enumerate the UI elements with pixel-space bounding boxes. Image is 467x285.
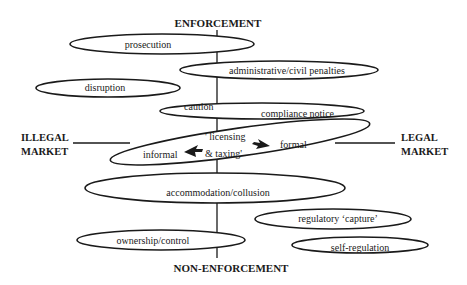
licensing-label: ' licensing (205, 131, 245, 142)
ownership-control-label: ownership/control (117, 235, 190, 246)
accommodation-collusion-label: accommodation/collusion (166, 187, 269, 198)
caution-label: caution (184, 101, 213, 112)
self-regulation-label: self-regulation (331, 242, 389, 253)
informal-label: informal (143, 149, 178, 160)
illegal-label: ILLEGAL (21, 132, 69, 143)
enforcement-market-diagram: ENFORCEMENT prosecution administrative/c… (0, 0, 467, 285)
non-enforcement-label: NON-ENFORCEMENT (174, 262, 290, 274)
administrative-penalties-label: administrative/civil penalties (229, 65, 345, 76)
compliance-notice-label: compliance notice (261, 108, 335, 119)
legal-market-label: MARKET (401, 146, 448, 157)
legal-label: LEGAL (401, 132, 438, 143)
illegal-market-label: MARKET (21, 146, 68, 157)
prosecution-label: prosecution (125, 39, 172, 50)
enforcement-label: ENFORCEMENT (175, 17, 262, 29)
disruption-label: disruption (85, 82, 126, 93)
taxing-label: & taxing' (205, 148, 242, 159)
formal-label: formal (280, 139, 307, 150)
regulatory-capture-label: regulatory ‘capture’ (298, 213, 378, 224)
